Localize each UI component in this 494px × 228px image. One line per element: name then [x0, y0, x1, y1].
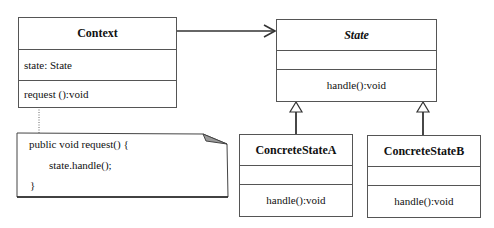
attribute: state: State [19, 49, 176, 80]
generalization-b-state [417, 102, 429, 135]
class-concrete-state-a[interactable]: ConcreteStateA handle():void [239, 134, 353, 217]
operation: handle():void [368, 185, 480, 218]
operation: handle():void [277, 69, 436, 102]
inheritance-triangle-icon [290, 102, 302, 112]
class-concrete-state-b[interactable]: ConcreteStateB handle():void [367, 135, 481, 218]
attributes-section [277, 50, 436, 69]
class-state[interactable]: State handle():void [276, 19, 437, 102]
class-context[interactable]: Context state: State request ():void [18, 17, 177, 108]
attributes-section [240, 165, 352, 184]
class-name: Context [19, 18, 176, 49]
inheritance-triangle-icon [417, 102, 429, 112]
association-context-state [176, 25, 275, 37]
operation: handle():void [240, 184, 352, 217]
class-name: ConcreteStateB [368, 136, 480, 166]
operation: request ():void [19, 80, 176, 108]
class-name: State [277, 20, 436, 50]
note-line-2: state.handle(); [49, 159, 112, 171]
class-name: ConcreteStateA [240, 135, 352, 165]
attributes-section [368, 166, 480, 185]
note-line-3: } [30, 179, 35, 191]
generalization-a-state [290, 102, 302, 134]
note-line-1: public void request() { [29, 138, 129, 150]
